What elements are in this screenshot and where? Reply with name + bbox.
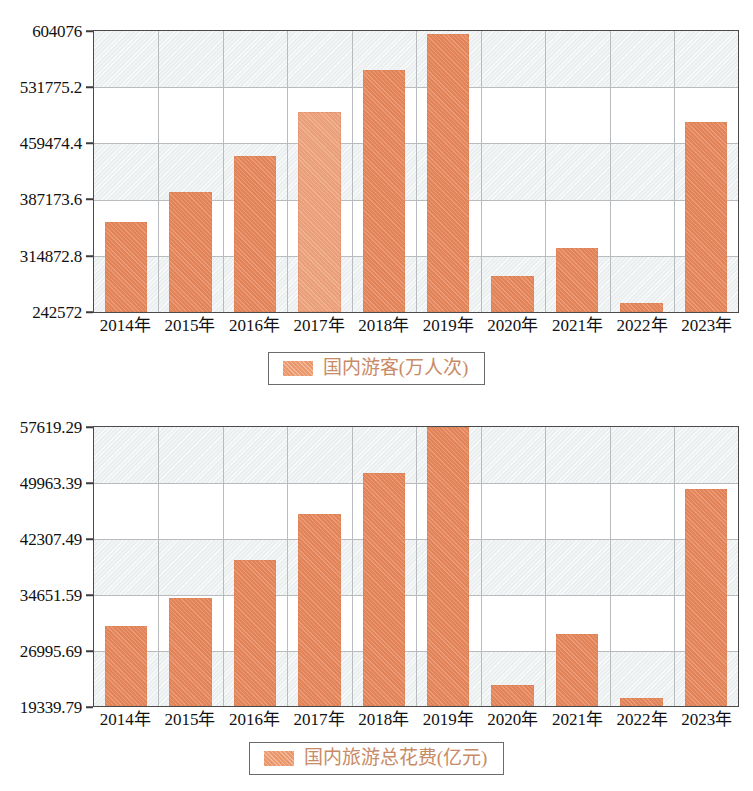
bar-slot	[287, 427, 351, 706]
x-tick-label: 2023年	[674, 316, 739, 336]
chart-domestic-tourists: 604076 531775.2 459474.4 387173.6 314872…	[0, 0, 753, 398]
bar-2021年[interactable]	[556, 248, 599, 312]
bar-2023年[interactable]	[685, 122, 728, 312]
y-tick-mark	[86, 142, 93, 144]
bars-top	[94, 31, 738, 312]
y-tick-mark	[86, 255, 93, 257]
bar-2017年[interactable]	[298, 514, 341, 706]
legend-bottom: 国内旅游总花费(亿元)	[0, 742, 753, 775]
x-axis-bottom: 2014年 2015年 2016年 2017年 2018年 2019年 2020…	[93, 710, 739, 730]
x-tick-label: 2020年	[481, 710, 546, 730]
bar-slot	[416, 31, 480, 312]
x-tick-label: 2017年	[287, 710, 352, 730]
x-tick-label: 2017年	[287, 316, 352, 336]
bar-slot	[352, 427, 416, 706]
bar-slot	[480, 31, 544, 312]
y-tick-label: 242572	[32, 304, 82, 321]
x-tick-label: 2018年	[351, 710, 416, 730]
bars-bottom	[94, 427, 738, 706]
bar-2018年[interactable]	[363, 70, 406, 312]
bar-slot	[416, 427, 480, 706]
y-tick-mark	[86, 482, 93, 484]
y-tick-mark	[86, 86, 93, 88]
x-tick-label: 2016年	[222, 316, 287, 336]
x-tick-label: 2021年	[545, 316, 610, 336]
x-tick-label: 2018年	[351, 316, 416, 336]
bar-slot	[674, 427, 738, 706]
bar-slot	[545, 427, 609, 706]
bar-slot	[223, 31, 287, 312]
bar-slot	[158, 31, 222, 312]
x-tick-label: 2014年	[93, 710, 158, 730]
x-tick-label: 2019年	[416, 316, 481, 336]
x-tick-label: 2022年	[610, 316, 675, 336]
x-tick-label: 2015年	[158, 710, 223, 730]
bar-slot	[352, 31, 416, 312]
bar-slot	[609, 31, 673, 312]
bar-2020年[interactable]	[491, 685, 534, 706]
y-tick-mark	[86, 30, 93, 32]
y-tick-label: 459474.4	[20, 135, 82, 152]
y-tick-label: 531775.2	[20, 79, 82, 96]
bar-2022年[interactable]	[620, 698, 663, 706]
y-tick-mark	[86, 198, 93, 200]
bar-slot	[545, 31, 609, 312]
plot-area-bottom	[93, 426, 739, 707]
y-tick-label: 604076	[32, 23, 82, 40]
bar-2016年[interactable]	[234, 560, 277, 706]
bar-2020年[interactable]	[491, 276, 534, 312]
y-tick-mark	[86, 426, 93, 428]
y-tick-mark	[86, 538, 93, 540]
bar-2017年[interactable]	[298, 112, 341, 312]
legend-box-bottom[interactable]: 国内旅游总花费(亿元)	[249, 742, 505, 775]
x-tick-label: 2015年	[158, 316, 223, 336]
legend-swatch-icon	[283, 361, 313, 376]
x-tick-label: 2016年	[222, 710, 287, 730]
x-tick-label: 2019年	[416, 710, 481, 730]
legend-box-top[interactable]: 国内游客(万人次)	[268, 352, 486, 385]
x-tick-label: 2020年	[481, 316, 546, 336]
bar-slot	[94, 427, 158, 706]
bar-2015年[interactable]	[169, 192, 212, 312]
legend-label: 国内游客(万人次)	[323, 358, 469, 378]
legend-swatch-icon	[264, 751, 294, 766]
x-tick-label: 2014年	[93, 316, 158, 336]
bar-slot	[158, 427, 222, 706]
bar-slot	[609, 427, 673, 706]
bar-2023年[interactable]	[685, 489, 728, 706]
bar-2021年[interactable]	[556, 634, 599, 706]
plot-area-top	[93, 30, 739, 313]
y-tick-mark	[86, 594, 93, 596]
x-tick-label: 2021年	[545, 710, 610, 730]
y-tick-label: 387173.6	[20, 191, 82, 208]
bar-slot	[94, 31, 158, 312]
bar-2016年[interactable]	[234, 156, 277, 312]
y-tick-mark	[86, 650, 93, 652]
bar-2014年[interactable]	[105, 626, 148, 706]
bar-2019年[interactable]	[427, 427, 470, 706]
y-tick-label: 42307.49	[20, 531, 82, 548]
legend-top: 国内游客(万人次)	[0, 352, 753, 385]
bar-slot	[287, 31, 351, 312]
chart-domestic-tourism-expenditure: 57619.29 49963.39 42307.49 34651.59 2699…	[0, 398, 753, 791]
y-tick-mark	[86, 706, 93, 708]
bar-slot	[674, 31, 738, 312]
x-tick-label: 2022年	[610, 710, 675, 730]
bar-slot	[480, 427, 544, 706]
x-tick-label: 2023年	[674, 710, 739, 730]
legend-label: 国内旅游总花费(亿元)	[304, 748, 488, 768]
y-tick-label: 49963.39	[20, 475, 82, 492]
bar-2015年[interactable]	[169, 598, 212, 706]
bar-2018年[interactable]	[363, 473, 406, 706]
y-tick-label: 57619.29	[20, 419, 82, 436]
y-tick-label: 34651.59	[20, 587, 82, 604]
y-tick-label: 26995.69	[20, 643, 82, 660]
y-tick-label: 19339.79	[20, 699, 82, 716]
bar-2014年[interactable]	[105, 222, 148, 312]
bar-slot	[223, 427, 287, 706]
x-axis-top: 2014年 2015年 2016年 2017年 2018年 2019年 2020…	[93, 316, 739, 336]
bar-2019年[interactable]	[427, 34, 470, 312]
bar-2022年[interactable]	[620, 303, 663, 312]
y-tick-mark	[86, 311, 93, 313]
y-tick-label: 314872.8	[20, 248, 82, 265]
